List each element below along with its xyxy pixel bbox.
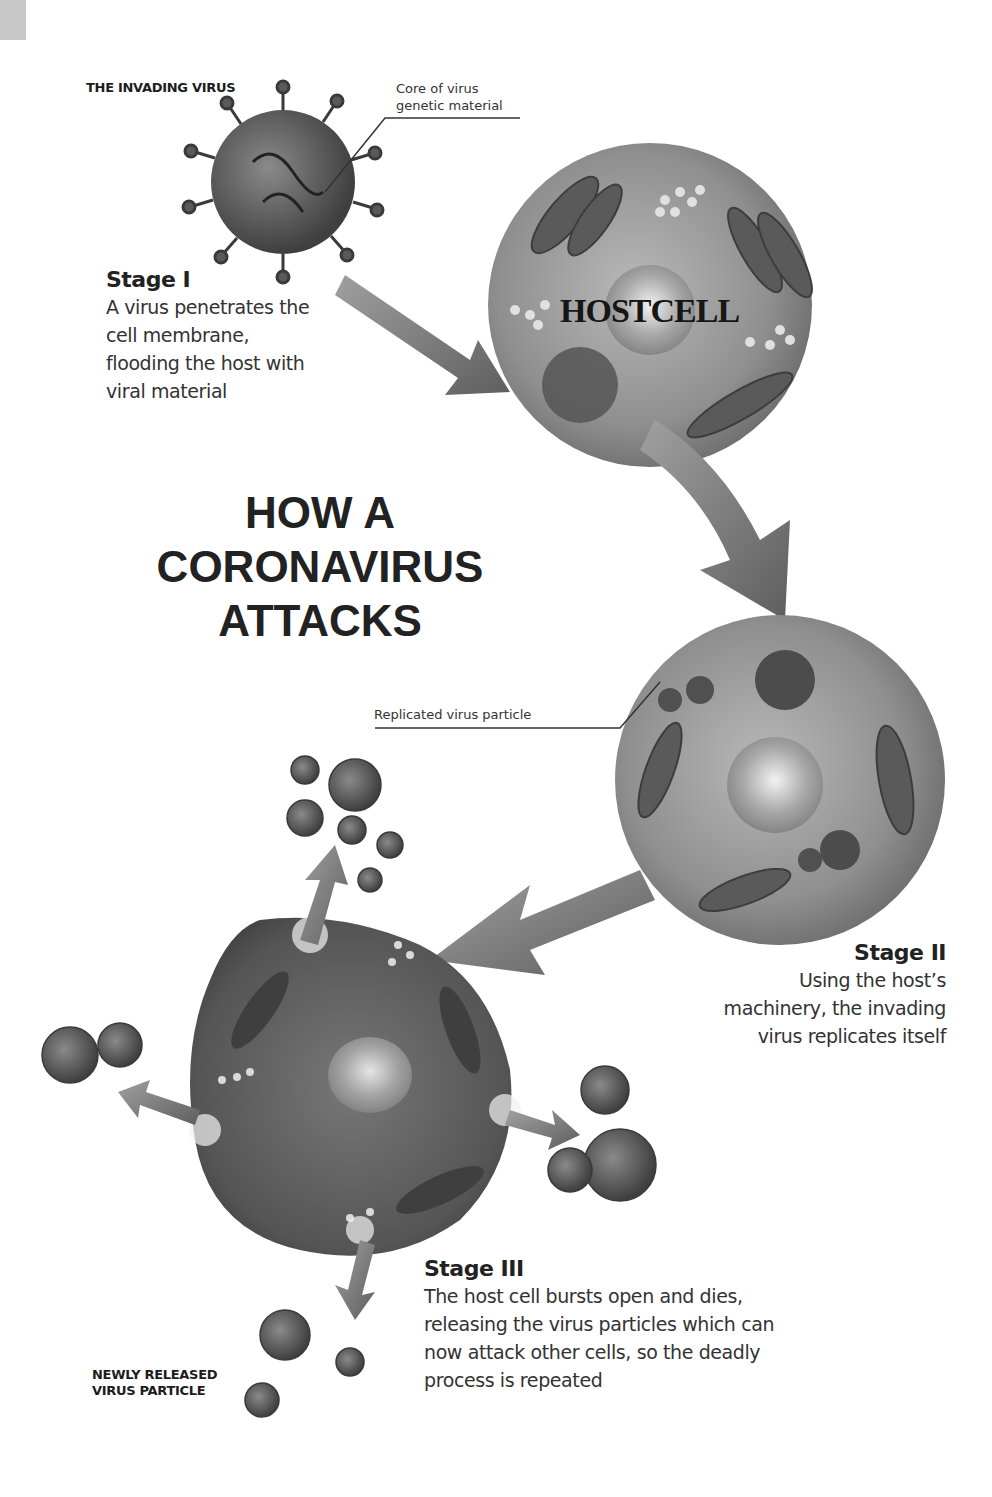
replicating-virus-icon	[755, 650, 815, 710]
stage-3-line: releasing the virus particles which can	[424, 1310, 844, 1338]
page-title: HOW A CORONAVIRUS ATTACKS	[120, 486, 520, 648]
stage-2-line: machinery, the invading	[620, 994, 946, 1022]
core-callout: Core of virus genetic material	[396, 80, 520, 114]
stage-3-line: The host cell bursts open and dies,	[424, 1282, 844, 1310]
stage-3-line: process is repeated	[424, 1366, 844, 1394]
host-cell-2	[615, 615, 945, 945]
stage-3-title: Stage III	[424, 1256, 844, 1282]
invading-virus-label: THE INVADING VIRUS	[86, 80, 235, 96]
stage-2-line: virus replicates itself	[620, 1022, 946, 1050]
stage-1-title: Stage I	[106, 267, 366, 293]
stage-2-block: Stage II Using the host’s machinery, the…	[620, 940, 946, 1050]
title-line-3: ATTACKS	[120, 594, 520, 648]
replicated-particle-label: Replicated virus particle	[374, 706, 531, 723]
stage-2-line: Using the host’s	[620, 966, 946, 994]
newly-released-label: NEWLY RELEASED VIRUS PARTICLE	[92, 1367, 217, 1399]
stage-3-block: Stage III The host cell bursts open and …	[424, 1256, 844, 1394]
newly-released-line1: NEWLY RELEASED	[92, 1367, 217, 1383]
invading-virus-icon	[183, 81, 383, 283]
penetrating-virus-icon	[542, 347, 618, 423]
stage-1-line: cell membrane,	[106, 321, 366, 349]
core-callout-line1: Core of virus	[396, 80, 520, 97]
title-line-2: CORONAVIRUS	[120, 540, 520, 594]
arrow-release-right	[505, 1110, 580, 1150]
core-callout-line2: genetic material	[396, 97, 520, 114]
hostcell-label: HOSTCELL	[560, 292, 739, 330]
bursting-cell	[189, 917, 521, 1256]
arrow-release-left	[118, 1080, 200, 1125]
stage-1-line: flooding the host with	[106, 349, 366, 377]
newly-released-line2: VIRUS PARTICLE	[92, 1383, 217, 1399]
stage-1-line: viral material	[106, 377, 366, 405]
title-line-1: HOW A	[120, 486, 520, 540]
page-edge-scrap	[0, 0, 26, 40]
stage-3-line: now attack other cells, so the deadly	[424, 1338, 844, 1366]
stage-1-block: Stage I A virus penetrates the cell memb…	[106, 267, 366, 405]
stage-2-title: Stage II	[620, 940, 946, 966]
stage-1-line: A virus penetrates the	[106, 293, 366, 321]
